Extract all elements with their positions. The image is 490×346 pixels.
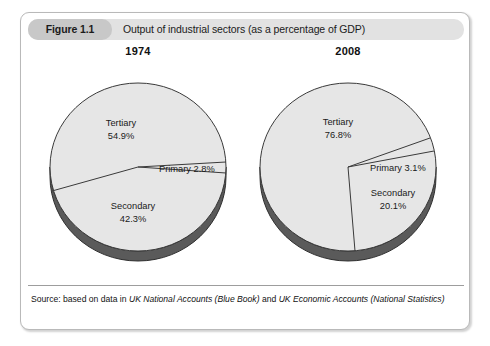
pie-slice-label-secondary-name-1974: Secondary bbox=[111, 201, 156, 211]
pie-slice-label-tertiary-name-2008: Tertiary bbox=[323, 117, 354, 127]
source-conjunction: and bbox=[260, 294, 279, 304]
source-citation-2: UK Economic Accounts (National Statistic… bbox=[279, 294, 445, 304]
source-prefix: Source: based on data in bbox=[31, 294, 129, 304]
pie-year-label-2008: 2008 bbox=[243, 45, 453, 57]
pie-year-label-1974: 1974 bbox=[33, 45, 243, 57]
pie-slice-label-secondary-name-2008: Secondary bbox=[371, 188, 416, 198]
pie-chart-2008: 2008 Tertiary 76.8% Primary 3.1% Seconda… bbox=[243, 45, 453, 277]
pie-slice-label-tertiary-name-1974: Tertiary bbox=[106, 118, 137, 128]
pie-slice-label-tertiary-value-1974: 54.9% bbox=[108, 131, 134, 141]
pie-svg-wrap-2008: Tertiary 76.8% Primary 3.1% Secondary 20… bbox=[243, 63, 453, 275]
pie-svg-wrap-1974: Tertiary 54.9% Primary 2.8% Secondary 42… bbox=[33, 63, 243, 275]
pie-slice-label-secondary-value-2008: 20.1% bbox=[380, 201, 406, 211]
figure-source-note: Source: based on data in UK National Acc… bbox=[31, 293, 455, 306]
pie-graphic-1974: Tertiary 54.9% Primary 2.8% Secondary 42… bbox=[33, 63, 243, 275]
pie-chart-1974: 1974 Tertiary 54.9% Primary 2.8% bbox=[33, 45, 243, 277]
source-citation-1: UK National Accounts (Blue Book) bbox=[129, 294, 260, 304]
figure-number-label: Figure 1.1 bbox=[28, 19, 112, 40]
figure-card: Figure 1.1 Output of industrial sectors … bbox=[20, 12, 470, 330]
pie-slice-label-primary-2008: Primary 3.1% bbox=[370, 163, 426, 173]
chart-area: 1974 Tertiary 54.9% Primary 2.8% bbox=[21, 45, 469, 277]
pie-graphic-2008: Tertiary 76.8% Primary 3.1% Secondary 20… bbox=[243, 63, 453, 275]
pie-slice-label-primary-1974: Primary 2.8% bbox=[159, 164, 215, 174]
figure-title: Output of industrial sectors (as a perce… bbox=[123, 19, 365, 40]
figure-header: Figure 1.1 Output of industrial sectors … bbox=[28, 19, 464, 40]
pie-slice-label-tertiary-value-2008: 76.8% bbox=[325, 130, 351, 140]
figure-divider bbox=[28, 285, 464, 286]
pie-slice-label-secondary-value-1974: 42.3% bbox=[120, 214, 146, 224]
